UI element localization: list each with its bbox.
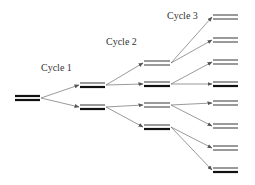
cycle3-duplex-5 [213,101,238,105]
cycle3-duplex-8 [213,168,238,172]
cycle2-duplex-1 [144,61,170,65]
cycle-3-label: Cycle 3 [167,10,198,21]
arrow-icon [106,63,143,85]
arrow-icon [106,105,143,107]
template-duplex [15,96,40,100]
arrow-icon [41,98,79,107]
cycle2-duplex-3 [144,103,170,107]
arrow-icon [171,105,212,126]
arrow-icon [171,40,212,63]
arrow-icon [41,85,79,98]
cycle1-duplex-2 [80,105,105,109]
arrow-icon [171,127,212,148]
arrow-icon [106,107,143,127]
arrow-icon [106,84,143,85]
pcr-cycle-diagram: Cycle 1 Cycle 2 Cycle 3 [0,0,255,185]
cycle1-duplex-1 [80,83,105,87]
cycle-2-label: Cycle 2 [106,36,137,47]
cycle3-duplex-4 [213,82,238,86]
cycle3-duplex-6 [213,124,238,128]
arrow-icon [171,62,212,84]
cycle-labels: Cycle 1 Cycle 2 Cycle 3 [41,10,198,73]
cycle-1-label: Cycle 1 [41,62,72,73]
cycle3-duplex-2 [213,38,238,42]
cycle3-duplex-7 [213,146,238,150]
arrow-icon [171,17,212,63]
cycle2-duplex-4 [144,125,170,129]
cycle3-duplex-3 [213,60,238,64]
arrow-icon [171,103,212,105]
arrow-icon [171,127,212,170]
cycle2-duplex-2 [144,82,170,86]
cycle3-duplex-1 [213,15,238,19]
